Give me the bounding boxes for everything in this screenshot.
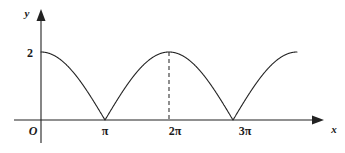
y-tick-label-2: 2: [27, 46, 33, 60]
x-tick-label-2pi: 2π: [169, 124, 182, 138]
x-axis-arrow-icon: [312, 116, 324, 125]
x-tick-label-3pi: 3π: [239, 124, 252, 138]
plot-area: y x O 2 π 2π 3π: [0, 0, 345, 153]
x-axis-label: x: [330, 123, 337, 135]
graph-figure: y x O 2 π 2π 3π: [0, 0, 345, 153]
origin-label: O: [29, 124, 38, 138]
y-axis-arrow-icon: [37, 9, 46, 21]
y-axis-label: y: [23, 7, 30, 19]
x-tick-label-pi: π: [102, 124, 109, 138]
